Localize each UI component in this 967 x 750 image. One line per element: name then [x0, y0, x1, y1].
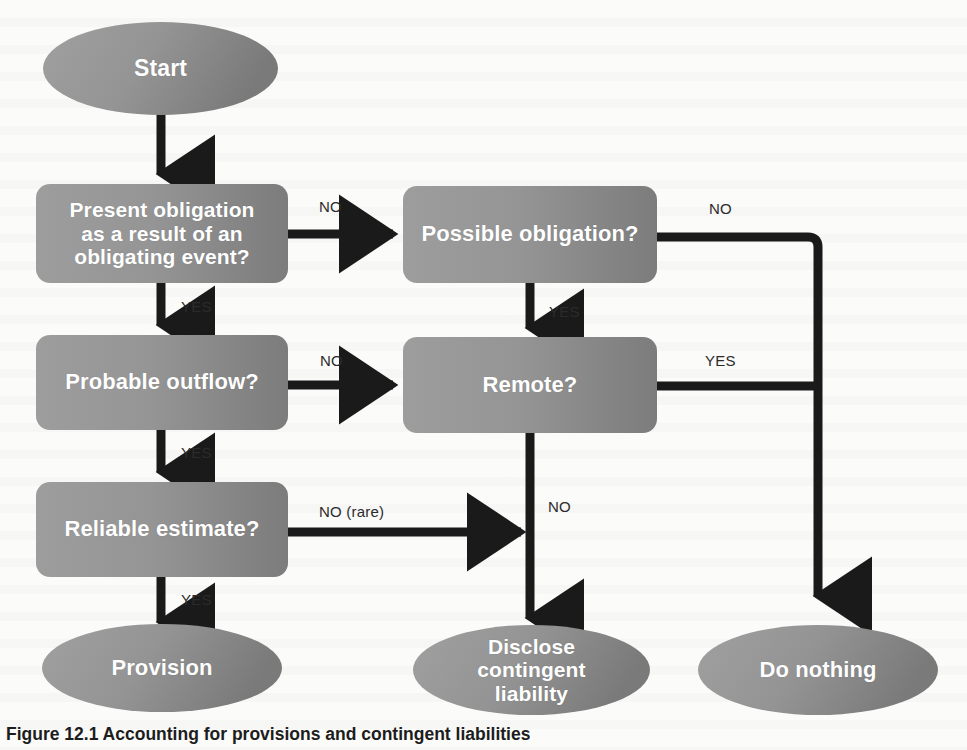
- edge-label-possible-to-remote: YES: [549, 303, 580, 320]
- flowchart-graphics: [0, 0, 967, 750]
- node-remote: [403, 337, 657, 433]
- edge-label-present-to-probable: YES: [181, 298, 212, 315]
- node-disclose-contingent-liability: [413, 625, 650, 715]
- node-possible-obligation: [403, 186, 657, 283]
- edge-label-remote-to-do-nothing: YES: [705, 352, 736, 369]
- edge-label-probable-to-reliable: YES: [181, 444, 212, 461]
- node-reliable-estimate: [36, 482, 288, 577]
- figure-canvas: Start Present obligation as a result of …: [0, 0, 967, 750]
- node-provision: [42, 624, 282, 712]
- node-start: [43, 22, 278, 115]
- edge-label-possible-to-do-nothing: NO: [709, 200, 732, 217]
- figure-caption: Figure 12.1 Accounting for provisions an…: [6, 724, 530, 750]
- node-do-nothing: [698, 625, 938, 715]
- edge-label-reliable-to-disclose: NO (rare): [319, 503, 384, 520]
- edge-label-reliable-to-provision: YES: [181, 591, 212, 608]
- edge-label-probable-to-remote: NO: [320, 352, 343, 369]
- node-probable-outflow: [36, 335, 288, 430]
- edge-possible-obligation-to-do-nothing: [657, 237, 818, 596]
- edge-label-present-to-possible: NO: [319, 198, 342, 215]
- edge-label-remote-to-disclose: NO: [548, 498, 571, 515]
- node-present-obligation: [36, 184, 288, 283]
